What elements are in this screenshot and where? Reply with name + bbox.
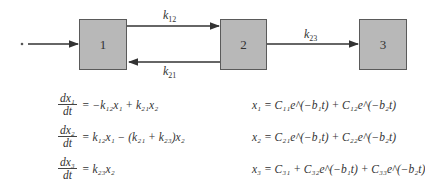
compartment-3-label: 3	[380, 37, 387, 53]
ode-2-fraction: dx₂ dt	[58, 124, 77, 149]
ode-2-denominator: dt	[63, 137, 72, 149]
ode-2: dx₂ dt = k₁₂x₁ − (k₂₁ + k₂₃)x₂	[58, 124, 185, 149]
compartment-2: 2	[220, 19, 267, 70]
ode-3-rhs: = k₂₃x₂	[82, 163, 115, 175]
ode-2-rhs: = k₁₂x₁ − (k₂₁ + k₂₃)x₂	[82, 131, 185, 143]
rate-k23-sub: 23	[309, 34, 317, 43]
compartment-1: 1	[79, 19, 127, 70]
rate-k12-sub: 12	[168, 15, 176, 24]
ode-3: dx₃ dt = k₂₃x₂	[58, 156, 115, 181]
ode-1-rhs: = −k₁₂x₁ + k₂₁x₂	[82, 99, 158, 111]
compartment-1-label: 1	[100, 37, 107, 53]
ode-1: dx₁ dt = −k₁₂x₁ + k₂₁x₂	[58, 92, 158, 117]
rate-k21-sub: 21	[168, 71, 176, 80]
compartment-3: 3	[359, 19, 407, 70]
ode-1-denominator: dt	[63, 105, 72, 117]
ode-3-numerator: dx₃	[58, 156, 77, 169]
ode-3-fraction: dx₃ dt	[58, 156, 77, 181]
ode-1-fraction: dx₁ dt	[58, 92, 77, 117]
rate-label-k12: k12	[163, 8, 176, 24]
solution-1: x₁ = C₁₁e^(−b₁t) + C₁₂e^(−b₂t)	[252, 99, 396, 111]
solution-2: x₂ = C₂₁e^(−b₁t) + C₂₂e^(−b₂t)	[252, 131, 396, 143]
rate-label-k23: k23	[304, 27, 317, 43]
ode-1-numerator: dx₁	[58, 92, 77, 105]
input-marker-dot	[21, 43, 24, 46]
ode-3-denominator: dt	[63, 169, 72, 181]
ode-2-numerator: dx₂	[58, 124, 77, 137]
solution-3: x₃ = C₃₁ + C₃₂e^(−b₁t) + C₃₃e^(−b₂t)	[252, 163, 425, 175]
rate-label-k21: k21	[163, 64, 176, 80]
compartment-2-label: 2	[240, 37, 247, 53]
